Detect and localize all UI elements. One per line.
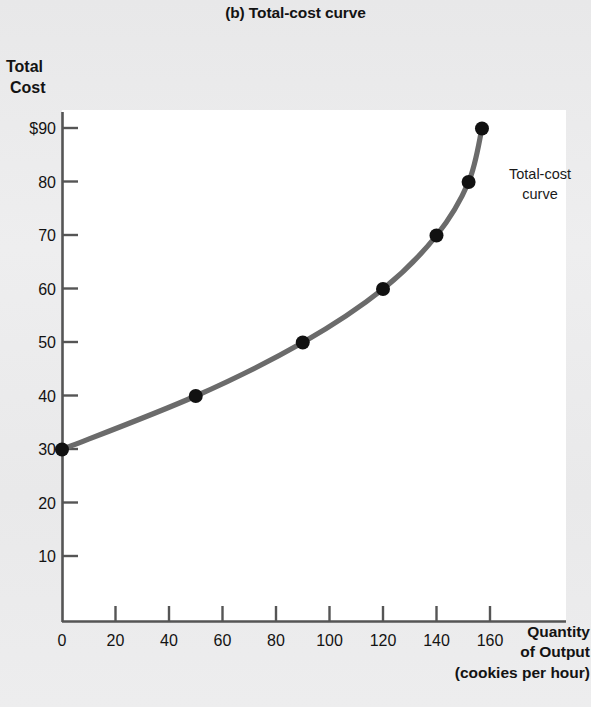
x-tick-label: 20 (107, 632, 125, 649)
y-tick-label: 70 (38, 227, 56, 244)
x-tick-label: 80 (267, 632, 285, 649)
y-axis-ticks (62, 128, 78, 556)
total-cost-curve (62, 129, 482, 450)
data-point (296, 336, 310, 350)
y-tick-label: $90 (29, 120, 56, 137)
x-tick-label: 100 (316, 632, 343, 649)
x-tick-label: 40 (160, 632, 178, 649)
y-tick-label: 80 (38, 174, 56, 191)
data-point-markers (55, 122, 489, 457)
x-tick-label: 140 (423, 632, 450, 649)
data-point (55, 443, 69, 457)
data-point (189, 389, 203, 403)
y-tick-label: 60 (38, 281, 56, 298)
y-tick-labels: $90 80 70 60 50 40 30 20 10 (29, 120, 56, 565)
data-point (376, 282, 390, 296)
y-tick-label: 50 (38, 334, 56, 351)
data-point (475, 122, 489, 136)
x-tick-label: 120 (370, 632, 397, 649)
x-tick-label: 0 (58, 632, 67, 649)
x-tick-label: 160 (477, 632, 504, 649)
y-tick-label: 30 (38, 441, 56, 458)
y-tick-label: 40 (38, 388, 56, 405)
chart-plot: $90 80 70 60 50 40 30 20 10 0 20 40 60 8… (0, 0, 591, 707)
x-tick-labels: 0 20 40 60 80 100 120 140 160 (58, 632, 504, 649)
x-axis-ticks (116, 606, 491, 622)
data-point (462, 175, 476, 189)
y-tick-label: 10 (38, 548, 56, 565)
x-tick-label: 60 (214, 632, 232, 649)
figure-panel: (b) Total-cost curve Total Cost Quantity… (0, 0, 591, 707)
data-point (430, 229, 444, 243)
y-tick-label: 20 (38, 495, 56, 512)
